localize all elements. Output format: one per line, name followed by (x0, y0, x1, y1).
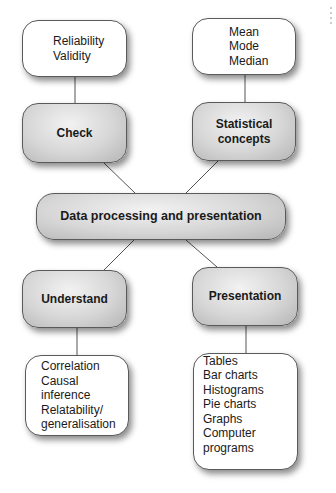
detail-item: Causal inference (41, 374, 128, 403)
presentation-node: Presentation (192, 267, 298, 326)
understand-details-box: Correlation Causal inference Relatabilit… (25, 355, 129, 436)
statistical-details-box: Mean Mode Median (192, 18, 296, 75)
detail-item: Median (229, 54, 295, 69)
page-edge-marks (330, 4, 334, 27)
check-details-box: Reliability Validity (22, 20, 127, 77)
detail-item: Bar charts (203, 368, 297, 383)
detail-item: Tables (203, 354, 297, 369)
detail-item: Graphs (203, 412, 297, 427)
center-label: Data processing and presentation (60, 209, 261, 224)
presentation-details-box: Tables Bar charts Histograms Pie charts … (193, 353, 298, 470)
detail-item: Pie charts (203, 397, 297, 412)
detail-item: Mode (229, 39, 295, 54)
node-label-line: Statistical (216, 117, 273, 132)
detail-item: Correlation (41, 359, 128, 374)
node-label-line: concepts (218, 132, 271, 147)
node-label: Understand (41, 292, 108, 307)
detail-item: Validity (53, 49, 126, 64)
detail-item: Histograms (203, 383, 297, 398)
detail-item: Relatability/ (41, 403, 128, 418)
understand-node: Understand (22, 270, 127, 328)
statistical-concepts-node: Statistical concepts (192, 102, 296, 161)
detail-item: Reliability (53, 34, 126, 49)
check-node: Check (22, 103, 127, 163)
node-label: Presentation (209, 289, 282, 304)
detail-item: Mean (229, 25, 295, 40)
detail-item: Computer programs (203, 426, 297, 455)
detail-item: generalisation (41, 417, 128, 432)
node-label: Check (56, 126, 92, 141)
center-node: Data processing and presentation (36, 193, 286, 240)
